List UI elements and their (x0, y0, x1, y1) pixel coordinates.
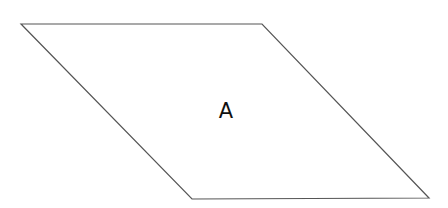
parallelogram-figure: A (0, 0, 448, 208)
shape-label: A (219, 99, 234, 123)
diagram-canvas: A (0, 0, 448, 208)
